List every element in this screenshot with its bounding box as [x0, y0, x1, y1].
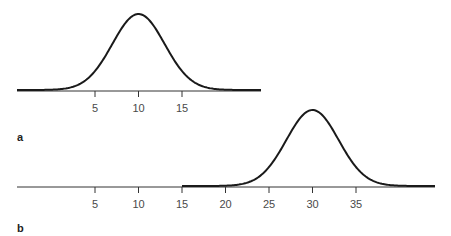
tick-label: 5: [92, 102, 98, 114]
panel-label-b: b: [17, 222, 24, 234]
panel-b: 5101520253035 b: [17, 110, 435, 234]
panel-a: 51015 a: [17, 14, 261, 143]
ticks-b: 5101520253035: [92, 187, 362, 210]
tick-label: 20: [219, 198, 231, 210]
gaussian-curve-a: [17, 14, 261, 90]
gaussian-curve-b: [182, 110, 435, 186]
tick-label: 35: [350, 198, 362, 210]
tick-label: 15: [176, 198, 188, 210]
panel-label-a: a: [17, 131, 24, 143]
tick-label: 5: [92, 198, 98, 210]
tick-label: 10: [132, 198, 144, 210]
tick-label: 30: [306, 198, 318, 210]
tick-label: 25: [263, 198, 275, 210]
chart-figure: 51015 a 5101520253035 b: [0, 0, 451, 236]
tick-label: 10: [132, 102, 144, 114]
tick-label: 15: [176, 102, 188, 114]
ticks-a: 51015: [92, 91, 188, 114]
